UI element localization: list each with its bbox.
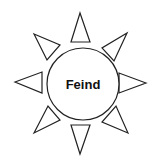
ray-bottom-triangle	[71, 125, 90, 154]
sun-diagram: Feind	[0, 0, 154, 163]
ray-left-triangle	[15, 72, 42, 93]
center-label: Feind	[47, 48, 119, 120]
ray-top-triangle	[71, 13, 90, 42]
ray-right-triangle	[119, 73, 146, 93]
